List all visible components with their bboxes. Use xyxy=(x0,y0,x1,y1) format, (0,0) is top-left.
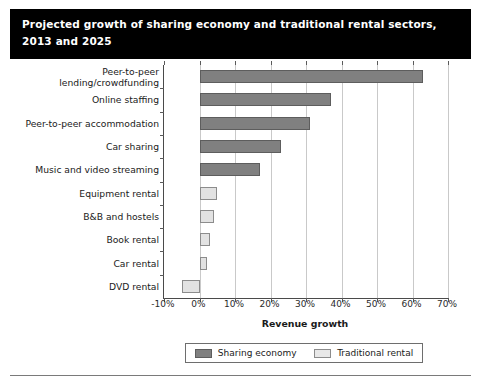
gridline xyxy=(448,65,449,298)
legend-label: Sharing economy xyxy=(218,348,297,358)
x-axis-tick-label: 30% xyxy=(295,299,315,309)
x-axis-tick xyxy=(342,61,343,65)
x-axis-tick-label: -10% xyxy=(151,299,174,309)
bar xyxy=(200,210,214,223)
legend-label: Traditional rental xyxy=(337,348,413,358)
chart-legend: Sharing economyTraditional rental xyxy=(185,343,423,363)
bar xyxy=(200,140,282,153)
legend-item: Traditional rental xyxy=(314,348,413,358)
y-axis-tick xyxy=(160,205,164,206)
x-axis-tick xyxy=(448,61,449,65)
chart-title-line-2: 2013 and 2025 xyxy=(22,33,459,50)
bar xyxy=(200,163,260,176)
bar xyxy=(182,280,200,293)
x-axis-tick-label: 40% xyxy=(330,299,350,309)
bar xyxy=(200,117,310,130)
y-axis-tick xyxy=(160,112,164,113)
x-axis-tick-label: 60% xyxy=(401,299,421,309)
x-axis-tick-label: 70% xyxy=(437,299,457,309)
x-axis-tick xyxy=(413,61,414,65)
legend-swatch-traditional xyxy=(314,349,331,358)
x-axis-tick-label: 0% xyxy=(191,299,205,309)
bar xyxy=(200,70,424,83)
y-axis-tick xyxy=(160,135,164,136)
category-label: B&B and hostels xyxy=(1,211,159,222)
category-label: Book rental xyxy=(1,234,159,245)
bar xyxy=(200,93,331,106)
x-axis-tick xyxy=(306,61,307,65)
category-label: Peer-to-peer accommodation xyxy=(1,118,159,129)
category-label: Music and video streaming xyxy=(1,164,159,175)
category-label: Equipment rental xyxy=(1,188,159,199)
bar xyxy=(200,257,207,270)
y-axis-tick xyxy=(160,251,164,252)
bottom-divider xyxy=(10,375,471,376)
category-label: Car sharing xyxy=(1,141,159,152)
bar-chart: Peer-to-peer lending/crowdfundingOnline … xyxy=(0,60,480,328)
legend-item: Sharing economy xyxy=(195,348,297,358)
chart-title-line-1: Projected growth of sharing economy and … xyxy=(22,16,459,33)
x-axis-tick-label: 20% xyxy=(259,299,279,309)
x-axis-tick-label: 10% xyxy=(224,299,244,309)
bar xyxy=(200,233,211,246)
gridline xyxy=(342,65,343,298)
y-axis-tick xyxy=(160,88,164,89)
x-axis-tick-label: 50% xyxy=(366,299,386,309)
gridline xyxy=(413,65,414,298)
plot-area xyxy=(163,65,448,299)
legend-swatch-sharing xyxy=(195,349,212,358)
category-label: DVD rental xyxy=(1,281,159,292)
y-axis-tick xyxy=(160,158,164,159)
y-axis-tick xyxy=(160,275,164,276)
bar xyxy=(200,187,218,200)
y-axis-tick xyxy=(160,182,164,183)
category-axis-labels: Peer-to-peer lending/crowdfundingOnline … xyxy=(0,65,159,298)
y-axis-tick xyxy=(160,228,164,229)
x-axis-tick xyxy=(235,61,236,65)
x-axis-tick xyxy=(164,61,165,65)
category-label: Peer-to-peer lending/crowdfunding xyxy=(1,66,159,88)
chart-title-banner: Projected growth of sharing economy and … xyxy=(10,9,471,59)
x-axis-title: Revenue growth xyxy=(163,318,447,329)
x-axis-tick xyxy=(377,61,378,65)
category-label: Online staffing xyxy=(1,94,159,105)
x-axis-tick xyxy=(271,61,272,65)
x-axis-tick xyxy=(200,61,201,65)
gridline xyxy=(377,65,378,298)
category-label: Car rental xyxy=(1,258,159,269)
